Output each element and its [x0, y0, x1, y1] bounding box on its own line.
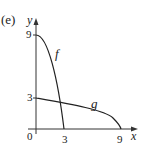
- series-label-g: g: [91, 97, 98, 110]
- y-axis-label: y: [27, 14, 32, 26]
- x-tick-label-0: 0: [27, 131, 33, 142]
- x-tick-label-9: 9: [117, 134, 123, 144]
- y-axis-arrow-icon: [34, 18, 39, 25]
- curve-f: [36, 35, 64, 129]
- panel-label: (e): [1, 13, 15, 26]
- chart-plot: [0, 0, 142, 144]
- y-tick-label-9: 9: [26, 29, 32, 40]
- curve-g: [36, 98, 121, 129]
- x-tick-label-3: 3: [62, 134, 68, 144]
- y-tick-label-3: 3: [27, 92, 33, 103]
- x-axis-label: x: [131, 130, 136, 142]
- series-label-f: f: [55, 47, 59, 60]
